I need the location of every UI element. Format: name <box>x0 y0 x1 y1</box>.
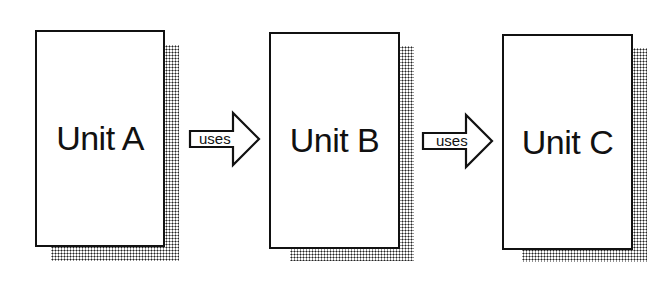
arrow-1-label: uses <box>199 130 231 147</box>
unit-b-box: Unit B <box>269 32 400 249</box>
unit-c-box: Unit C <box>502 34 633 250</box>
arrow-2-label: uses <box>436 132 468 149</box>
unit-a-box: Unit A <box>35 30 165 247</box>
unit-c-label: Unit C <box>522 123 613 162</box>
unit-a-label: Unit A <box>56 119 144 158</box>
unit-b-label: Unit B <box>290 121 380 160</box>
